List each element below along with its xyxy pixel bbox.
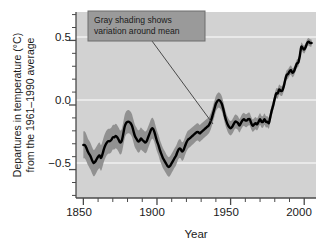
callout-line-2: variation around mean — [94, 26, 180, 36]
temperature-anomaly-figure: Gray shading shows variation around mean… — [0, 0, 334, 249]
y-tick-label-0.0: 0.0 — [55, 94, 71, 106]
x-axis-title: Year — [184, 228, 207, 240]
y-tick-label--0.5: −0.5 — [48, 157, 71, 169]
callout-line-1: Gray shading shows — [94, 15, 172, 25]
gray-shading-callout: Gray shading shows variation around mean — [88, 11, 205, 41]
x-tick-label-1900: 1900 — [139, 206, 165, 218]
x-tick-label-1850: 1850 — [66, 206, 92, 218]
y-tick-label-0.5: 0.5 — [55, 31, 71, 43]
x-tick-label-1950: 1950 — [213, 206, 239, 218]
y-axis-title-line-2: from the 1961–1990 average — [24, 37, 36, 172]
x-tick-label-2000: 2000 — [286, 206, 312, 218]
y-axis-title-line-1: Departures in temperature (°C) — [11, 33, 23, 177]
chart-canvas: Gray shading shows variation around mean… — [0, 0, 334, 249]
x-axis-ticks — [83, 198, 304, 205]
